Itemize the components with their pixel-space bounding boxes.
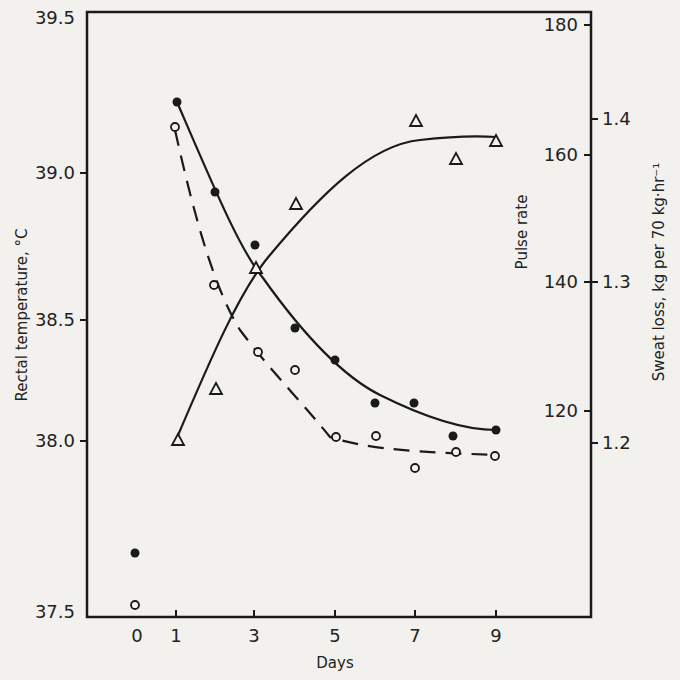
y-right-inner-tick-label: 120 [544, 400, 578, 421]
pulse-points [172, 115, 502, 445]
left-y-axis: 39.5 39.0 38.5 38.0 37.5 Rectal temperat… [13, 7, 87, 622]
y-left-tick-label: 38.0 [35, 430, 75, 451]
x-tick-label: 3 [248, 625, 259, 646]
y-right-outer-tick-label: 1.3 [602, 271, 631, 292]
y-right-inner-tick-label: 160 [544, 144, 578, 165]
x-tick-label: 7 [409, 625, 420, 646]
y-left-axis-label: Rectal temperature, °C [13, 228, 31, 401]
y-right-outer-axis-label: Sweat loss, kg per 70 kg·hr⁻¹ [650, 163, 668, 381]
x-axis-label: Days [316, 654, 354, 672]
x-tick-label: 9 [490, 625, 501, 646]
y-right-inner-axis-label: Pulse rate [513, 195, 531, 270]
y-left-tick-label: 39.0 [35, 162, 75, 183]
y-right-outer-tick-label: 1.4 [602, 108, 631, 129]
temperature-open-curve [175, 130, 496, 455]
pulse-curve [176, 136, 496, 440]
y-right-inner-tick-label: 180 [544, 14, 578, 35]
y-left-tick-label: 37.5 [35, 601, 75, 622]
temperature-filled-points [131, 98, 501, 558]
temperature-open-points [131, 123, 499, 609]
plot-frame [87, 12, 591, 617]
y-left-tick-label: 38.5 [35, 309, 75, 330]
y-right-inner-tick-label: 140 [544, 271, 578, 292]
x-tick-label: 1 [170, 625, 181, 646]
x-tick-label: 5 [329, 625, 340, 646]
y-left-tick-label: 39.5 [35, 7, 75, 28]
temperature-filled-curve [177, 102, 496, 430]
x-tick-label: 0 [131, 625, 142, 646]
y-right-outer-tick-label: 1.2 [602, 432, 631, 453]
chart: 39.5 39.0 38.5 38.0 37.5 Rectal temperat… [0, 0, 680, 680]
x-axis: 0 1 3 5 7 9 Days [131, 610, 501, 672]
